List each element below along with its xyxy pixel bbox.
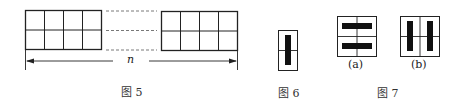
fig5-caption: 图 5 xyxy=(121,83,143,99)
fig7b-label: (b) xyxy=(411,58,427,71)
fig7a-bottom-domino xyxy=(342,43,372,49)
fig7b-right-domino xyxy=(427,21,433,51)
fig6-caption: 图 6 xyxy=(278,84,300,100)
fig6-vertical-domino xyxy=(285,35,291,65)
fig7a-label: (a) xyxy=(348,58,363,71)
fig6-tile xyxy=(279,31,298,71)
fig7-caption: 图 7 xyxy=(377,84,399,100)
fig7b-tile xyxy=(401,17,440,57)
fig7a-tile xyxy=(338,17,377,57)
fig5-ellipsis-dashes xyxy=(106,11,157,50)
fig5-n-label: n xyxy=(127,53,134,66)
fig7b-left-domino xyxy=(407,21,413,51)
fig5-left-grid xyxy=(26,11,102,50)
fig7a-top-domino xyxy=(342,23,372,29)
fig5-right-grid xyxy=(162,12,238,51)
